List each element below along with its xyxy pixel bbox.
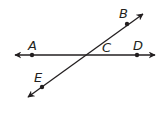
point-A-dot <box>30 53 34 57</box>
label-E: E <box>34 70 43 85</box>
label-A: A <box>27 38 37 53</box>
diagram-canvas: A B C D E <box>0 0 166 116</box>
label-D: D <box>133 38 143 53</box>
geometry-diagram: A B C D E <box>0 0 166 116</box>
label-B: B <box>119 6 128 21</box>
point-D-dot <box>135 53 139 57</box>
point-E-dot <box>40 85 44 89</box>
label-C: C <box>102 40 112 55</box>
point-B-dot <box>125 22 129 26</box>
